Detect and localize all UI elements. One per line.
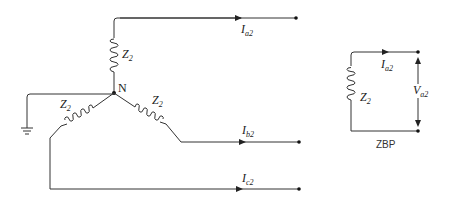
eq-impedance-label: Z2 — [360, 90, 371, 106]
zbp-caption: ZBP — [376, 139, 396, 150]
ground-connection — [21, 94, 114, 134]
impedance-a-label: Z2 — [122, 47, 133, 63]
neutral-label: N — [118, 81, 127, 95]
terminal-a-icon — [294, 16, 298, 20]
circuit-diagram: N Z2 Z2 Z2 Ia2 Ib2 Ic2 — [0, 0, 449, 197]
phase-b-branch — [114, 93, 301, 144]
current-b-label: Ib2 — [241, 123, 254, 139]
inductor-eq-icon — [347, 68, 355, 101]
terminal-c-icon — [297, 187, 301, 191]
eq-current-label: Ia2 — [380, 57, 393, 73]
phase-a-branch — [110, 16, 298, 93]
inductor-a-icon — [110, 39, 118, 72]
terminal-b-icon — [297, 140, 301, 144]
current-c-label: Ic2 — [241, 171, 254, 187]
terminal-eq-bottom-icon — [416, 129, 420, 133]
terminal-eq-top-icon — [416, 50, 420, 54]
ground-icon — [21, 128, 33, 134]
current-a-label: Ia2 — [240, 22, 253, 38]
impedance-c-label: Z2 — [60, 97, 71, 113]
impedance-b-label: Z2 — [152, 93, 163, 109]
